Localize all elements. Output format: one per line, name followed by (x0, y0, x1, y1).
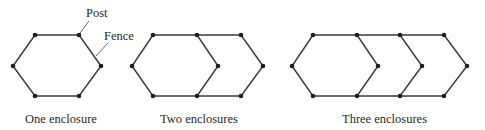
post (261, 64, 266, 69)
fence-divider (400, 35, 422, 96)
post (99, 64, 104, 69)
post (130, 64, 135, 69)
caption-two-enclosures: Two enclosures (160, 112, 238, 126)
post (195, 94, 200, 99)
posts (11, 33, 104, 99)
post (216, 64, 221, 69)
fence-divider (357, 35, 378, 96)
post (398, 94, 403, 99)
caption-one-enclosure: One enclosure (25, 112, 97, 126)
post (355, 33, 360, 38)
fence-divider (197, 35, 218, 96)
post (442, 94, 447, 99)
fence-right (444, 35, 467, 96)
diagram-three-enclosures: Three enclosures (290, 33, 470, 126)
post (311, 33, 316, 38)
diagram-two-enclosures: Two enclosures (130, 33, 266, 126)
post (239, 94, 244, 99)
post (398, 33, 403, 38)
post (442, 33, 447, 38)
post (465, 64, 470, 69)
fence-leader-line (96, 43, 108, 56)
enclosures-diagram: Post Fence One enclosure Two enclosures (0, 0, 485, 130)
post-leader-line (80, 21, 89, 33)
fence-label: Fence (104, 29, 134, 43)
fence-hexagon (13, 35, 101, 96)
posts (290, 33, 470, 99)
post (239, 33, 244, 38)
posts (130, 33, 266, 99)
post (151, 33, 156, 38)
post (77, 33, 82, 38)
post (376, 64, 381, 69)
post (33, 33, 38, 38)
diagram-one-enclosure: Post Fence One enclosure (11, 6, 135, 126)
fence-right (241, 35, 263, 96)
post (311, 94, 316, 99)
post (420, 64, 425, 69)
post (11, 64, 16, 69)
post (151, 94, 156, 99)
post (290, 64, 295, 69)
post (77, 94, 82, 99)
fence-outer (132, 35, 241, 96)
post (355, 94, 360, 99)
post-label: Post (86, 6, 108, 20)
post (195, 33, 200, 38)
post (33, 94, 38, 99)
caption-three-enclosures: Three enclosures (342, 112, 427, 126)
